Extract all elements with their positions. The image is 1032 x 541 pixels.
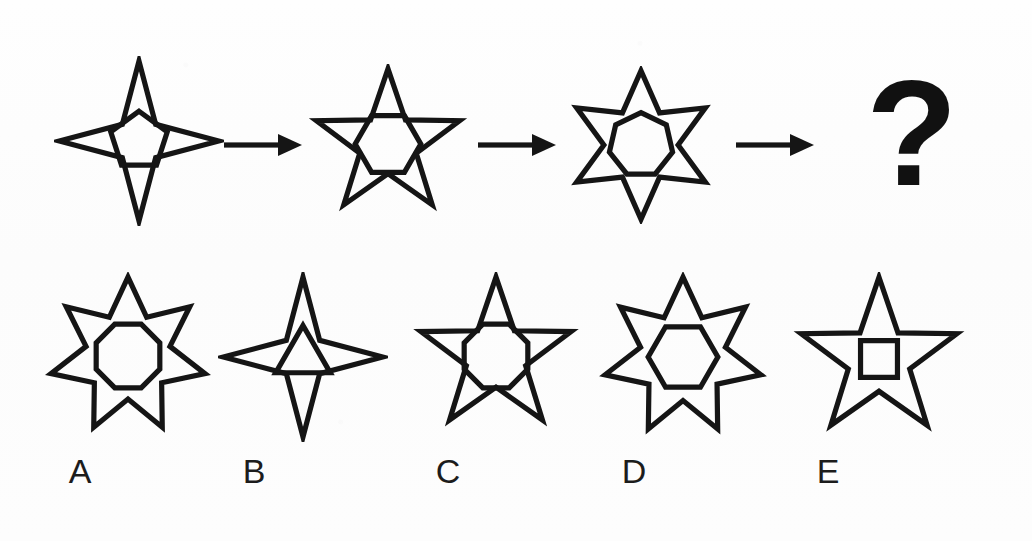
sequence-arrow-3 <box>736 132 814 158</box>
star-4-point-outline <box>223 277 383 437</box>
option-label-d[interactable]: D <box>594 452 674 491</box>
star-4-point-outline <box>59 61 219 221</box>
star-6-point-outline <box>577 71 706 220</box>
option-figure-e[interactable] <box>792 272 966 446</box>
option-b-svg <box>218 272 388 442</box>
option-label-b[interactable]: B <box>214 452 294 491</box>
option-label-e[interactable]: E <box>788 452 868 491</box>
option-e-svg <box>792 272 966 446</box>
star-5-point-outline <box>316 69 459 205</box>
star-7-point-outline <box>605 277 761 429</box>
arrow-1-svg <box>224 132 302 158</box>
star-7-point-outline <box>51 277 205 427</box>
inner-octagon <box>464 324 528 388</box>
arrow-head <box>790 134 814 156</box>
option-labels-row: A B C D E <box>0 452 1032 508</box>
sequence-figure-2 <box>308 64 468 224</box>
arrow-shaft <box>478 142 534 147</box>
inner-hexagon <box>355 116 421 173</box>
option-a-svg <box>44 272 212 440</box>
option-label-a[interactable]: A <box>40 452 120 491</box>
option-figure-c[interactable] <box>412 272 580 440</box>
sequence-figure-3 <box>562 66 720 224</box>
inner-heptagon <box>609 113 672 175</box>
arrow-3-svg <box>736 132 814 158</box>
sequence-arrow-1 <box>224 132 302 158</box>
arrow-2-svg <box>478 132 556 158</box>
sequence-figure-1 <box>54 56 224 226</box>
option-d-svg <box>598 272 768 442</box>
arrow-shaft <box>736 142 792 147</box>
seq-2-svg <box>308 64 468 224</box>
option-figure-b[interactable] <box>218 272 388 442</box>
arrow-shaft <box>224 142 280 147</box>
sequence-arrow-2 <box>478 132 556 158</box>
inner-square <box>861 341 898 378</box>
puzzle-canvas: ? A B C D E <box>0 0 1032 541</box>
inner-hexagon <box>648 327 718 387</box>
option-c-svg <box>412 272 580 440</box>
star-5-point-outline <box>801 277 957 425</box>
options-row <box>0 272 1032 452</box>
option-label-c[interactable]: C <box>408 452 488 491</box>
inner-triangle <box>276 326 330 373</box>
arrow-head <box>278 134 302 156</box>
seq-3-svg <box>562 66 720 224</box>
question-mark-placeholder: ? <box>866 58 958 208</box>
option-figure-a[interactable] <box>44 272 212 440</box>
option-figure-d[interactable] <box>598 272 768 442</box>
inner-pentagon <box>111 111 168 165</box>
star-5-point-outline <box>421 277 571 420</box>
arrow-head <box>532 134 556 156</box>
inner-octagon <box>96 324 160 388</box>
seq-1-svg <box>54 56 224 226</box>
sequence-row: ? <box>0 44 1032 234</box>
